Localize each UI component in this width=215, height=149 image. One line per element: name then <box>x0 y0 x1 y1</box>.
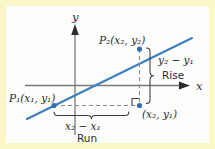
point-label-p1: P₁(x₁, y₁) <box>8 92 55 104</box>
figure-container: y x P₁(x₁, y₁) P₂(x₂, y₂) (x₂, y₁) y₂ − … <box>0 0 215 149</box>
point-label-corner: (x₂, y₁) <box>142 108 177 120</box>
rise-word-label: Rise <box>162 69 184 81</box>
point-marker-p2 <box>137 46 142 51</box>
rise-expression-label: y₂ − y₁ <box>157 54 194 66</box>
run-expression-label: x₂ − x₁ <box>65 120 101 132</box>
x-axis-label: x <box>196 79 203 93</box>
run-brace <box>54 112 129 119</box>
point-label-p2: P₂(x₂, y₂) <box>98 34 145 46</box>
run-word-label: Run <box>77 132 97 143</box>
figure-panel: y x P₁(x₁, y₁) P₂(x₂, y₂) (x₂, y₁) y₂ − … <box>6 6 209 143</box>
dashed-guides-group <box>54 49 140 106</box>
slope-diagram: y x P₁(x₁, y₁) P₂(x₂, y₂) (x₂, y₁) y₂ − … <box>6 6 209 143</box>
y-axis-arrowhead <box>71 24 79 35</box>
x-axis-arrowhead <box>179 82 190 90</box>
point-markers-group <box>51 46 142 108</box>
y-axis-label: y <box>71 10 79 24</box>
